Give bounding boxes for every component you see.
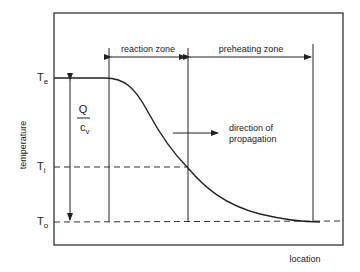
temperature-curve [54,78,320,222]
te-label: Te [37,71,49,86]
to-label: To [37,215,49,230]
reaction-zone-label: reaction zone [121,44,175,54]
x-axis-label: location [289,254,320,264]
preheating-zone-label: preheating zone [219,44,284,54]
temperature-profile-diagram: reaction zone preheating zone Q cv Te Ti… [0,0,360,272]
propagation-label-line1: direction of [229,123,274,133]
cv-symbol: cv [80,121,90,136]
propagation-label-line2: propagation [229,134,277,144]
y-axis-label: temperature [18,121,28,170]
plot-frame [54,13,343,245]
q-symbol: Q [79,103,88,115]
ti-label: Ti [37,160,46,175]
